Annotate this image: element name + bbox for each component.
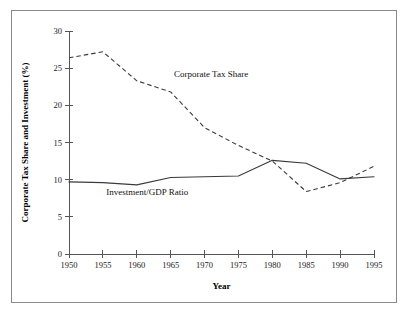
y-tick-label: 25 xyxy=(54,63,63,73)
figure-root: 051015202530Corporate Tax Share and Inve… xyxy=(0,0,409,312)
x-tick-label: 1950 xyxy=(61,260,78,270)
x-tick-label: 1975 xyxy=(230,260,247,270)
y-tick-label: 15 xyxy=(54,138,63,148)
series-annotations: Corporate Tax ShareInvestment/GDP Ratio xyxy=(106,69,248,197)
y-tick-label: 20 xyxy=(54,100,63,110)
y-tick-label: 30 xyxy=(54,26,63,36)
x-tick-label: 1980 xyxy=(264,260,281,270)
x-axis-title: Year xyxy=(213,281,231,291)
series-label-corporate-tax-share: Corporate Tax Share xyxy=(174,69,248,79)
figure-border-frame: 051015202530Corporate Tax Share and Inve… xyxy=(11,10,397,303)
line-chart: 051015202530Corporate Tax Share and Inve… xyxy=(12,11,396,302)
x-tick-label: 1995 xyxy=(366,260,383,270)
series-label-investment-gdp-ratio: Investment/GDP Ratio xyxy=(106,187,188,197)
x-axis: 1950195519601965197019751980198519901995 xyxy=(61,250,383,270)
x-tick-label: 1965 xyxy=(162,260,179,270)
y-tick-label: 5 xyxy=(58,212,62,222)
series-line-investment-gdp-ratio xyxy=(69,160,374,185)
y-tick-label: 10 xyxy=(54,175,63,185)
y-tick-label: 0 xyxy=(58,249,62,259)
x-tick-label: 1960 xyxy=(128,260,145,270)
y-axis: 051015202530Corporate Tax Share and Inve… xyxy=(20,26,73,259)
x-tick-label: 1970 xyxy=(196,260,213,270)
y-axis-title: Corporate Tax Share and Investment (%) xyxy=(20,62,30,222)
x-tick-label: 1955 xyxy=(94,260,111,270)
x-tick-label: 1990 xyxy=(332,260,349,270)
x-tick-label: 1985 xyxy=(298,260,315,270)
